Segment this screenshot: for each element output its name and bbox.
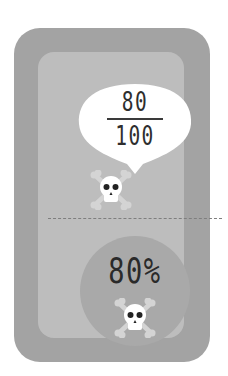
dashed-divider <box>48 218 222 219</box>
fraction-denominator: 100 <box>92 122 179 150</box>
fraction: 80 100 <box>77 88 193 150</box>
percent-circle: 80% <box>80 236 190 346</box>
fraction-divider <box>107 118 163 120</box>
card: 80 100 80% <box>14 28 210 362</box>
skull-crossbones-icon <box>90 170 132 210</box>
inner-panel: 80 100 80% <box>38 52 184 338</box>
skull-crossbones-icon <box>114 298 156 338</box>
percent-label: 80% <box>94 250 177 291</box>
fraction-numerator: 80 <box>92 88 179 116</box>
speech-bubble: 80 100 <box>77 82 193 172</box>
